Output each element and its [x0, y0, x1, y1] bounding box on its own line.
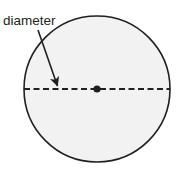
center-point-dot — [93, 85, 100, 92]
diameter-label: diameter — [3, 13, 56, 28]
diagram-canvas: diameter — [0, 0, 177, 169]
circle-diameter-figure: diameter — [0, 0, 177, 169]
